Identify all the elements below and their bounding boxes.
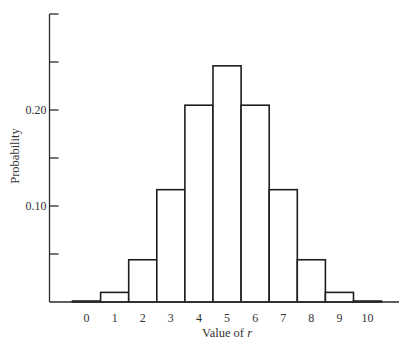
x-tick-label: 9	[336, 311, 342, 325]
x-tick-label: 10	[362, 311, 374, 325]
bar-r-5	[213, 66, 241, 302]
y-axis-title: Probability	[8, 127, 22, 183]
x-axis-title: Value of r	[202, 326, 252, 340]
x-axis-title-variable: r	[247, 326, 252, 340]
x-axis: 012345678910	[50, 302, 400, 325]
bar-r-8	[297, 260, 325, 302]
bar-r-3	[157, 190, 185, 302]
x-tick-label: 8	[308, 311, 314, 325]
x-tick-label: 4	[196, 311, 202, 325]
bar-r-6	[241, 105, 269, 302]
x-tick-label: 6	[252, 311, 258, 325]
x-tick-label: 7	[280, 311, 286, 325]
bar-r-1	[101, 292, 129, 302]
x-tick-label: 0	[84, 311, 90, 325]
x-axis-title-prefix: Value of	[202, 326, 247, 340]
y-tick-label: 0.10	[26, 199, 47, 213]
x-tick-label: 3	[168, 311, 174, 325]
y-axis: 0.100.20	[26, 14, 59, 302]
probability-histogram: 0.100.20 012345678910 Probability Value …	[0, 0, 408, 349]
bar-r-9	[325, 292, 353, 302]
x-tick-label: 2	[140, 311, 146, 325]
bars	[73, 66, 382, 302]
bar-r-4	[185, 105, 213, 302]
bar-r-2	[129, 260, 157, 302]
bar-r-7	[269, 190, 297, 302]
x-tick-label: 5	[224, 311, 230, 325]
x-tick-label: 1	[112, 311, 118, 325]
y-tick-label: 0.20	[26, 103, 47, 117]
